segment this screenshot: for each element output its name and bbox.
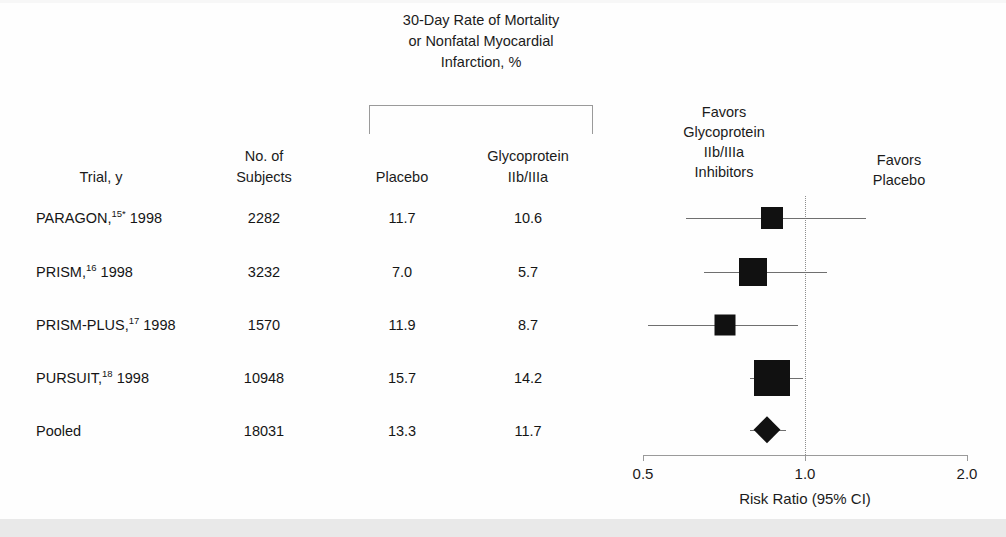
x-axis-tick-label-2: 2.0: [957, 465, 978, 483]
x-axis-tick-2: [967, 455, 968, 461]
reference-line-1: [805, 196, 806, 455]
x-axis-tick-0: [643, 455, 644, 461]
study-square-marker: [714, 315, 735, 336]
forest-plot: [0, 0, 1006, 537]
x-axis-tick-label-1: 1.0: [795, 465, 816, 483]
figure-canvas: 30-Day Rate of Mortality or Nonfatal Myo…: [0, 0, 1006, 537]
study-square-marker: [754, 360, 790, 396]
study-square-marker: [761, 207, 783, 229]
x-axis-tick-label-0: 0.5: [633, 465, 654, 483]
x-axis-title: Risk Ratio (95% CI): [739, 490, 871, 508]
study-square-marker: [739, 258, 767, 286]
pooled-diamond-marker: [753, 416, 780, 443]
x-axis-tick-1: [805, 455, 806, 461]
page-footer-band: [0, 519, 1006, 537]
